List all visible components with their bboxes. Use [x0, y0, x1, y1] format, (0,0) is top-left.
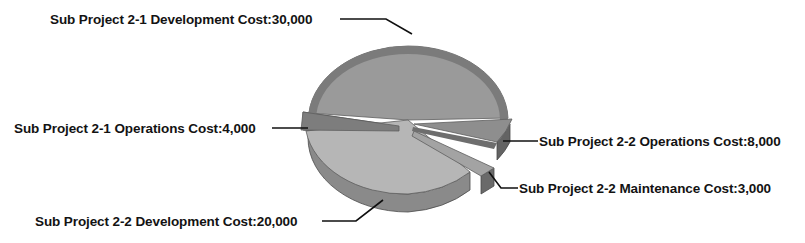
pie-chart-canvas: Sub Project 2-1 Development Cost:30,000 … — [0, 0, 805, 243]
label-sub-project-2-2-development-cost: Sub Project 2-2 Development Cost:20,000 — [35, 214, 297, 229]
label-sub-project-2-2-maintenance-cost: Sub Project 2-2 Maintenance Cost:3,000 — [519, 181, 771, 196]
label-sub-project-2-2-operations-cost: Sub Project 2-2 Operations Cost:8,000 — [539, 134, 781, 149]
label-sub-project-2-1-operations-cost: Sub Project 2-1 Operations Cost:4,000 — [14, 121, 256, 136]
label-sub-project-2-1-development-cost: Sub Project 2-1 Development Cost:30,000 — [50, 12, 312, 27]
pie-chart-figure: Sub Project 2-1 Development Cost:30,000 … — [0, 0, 805, 243]
